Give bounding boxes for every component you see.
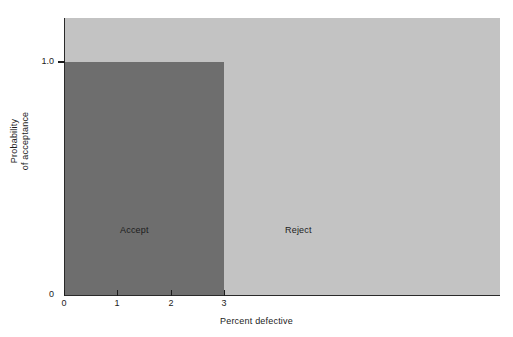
x-tick-label-3: 3 <box>221 298 226 308</box>
y-axis-title: Probability of acceptance <box>9 91 31 191</box>
oc-curve-chart: Accept Reject 0 1 2 3 1.0 0 Percent defe… <box>0 0 513 337</box>
y-axis-line <box>64 18 65 295</box>
y-tick-label-0: 0 <box>22 289 54 299</box>
x-tick-label-0: 0 <box>61 298 66 308</box>
x-axis-line <box>64 295 500 296</box>
x-tick-mark-0 <box>64 290 65 296</box>
x-axis-title: Percent defective <box>0 316 513 326</box>
y-tick-mark-1p0 <box>58 61 65 63</box>
x-tick-label-1: 1 <box>114 298 119 308</box>
reject-region-label: Reject <box>285 225 312 235</box>
x-tick-mark-1 <box>117 290 118 296</box>
plot-area: Accept Reject <box>64 18 500 295</box>
y-axis-title-line-1: Probability <box>9 91 20 191</box>
accept-region-fill <box>64 62 224 295</box>
y-axis-title-line-2: of acceptance <box>20 91 31 191</box>
x-tick-mark-2 <box>171 290 172 296</box>
x-tick-mark-3 <box>224 290 225 296</box>
x-tick-label-2: 2 <box>168 298 173 308</box>
accept-region-label: Accept <box>120 225 149 235</box>
y-tick-label-1p0: 1.0 <box>22 56 54 66</box>
